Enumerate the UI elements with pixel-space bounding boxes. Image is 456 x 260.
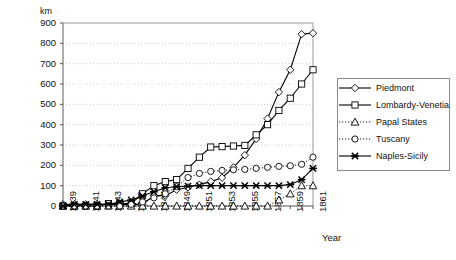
chart-figure: km 9008007006005004003002001000 18391841… xyxy=(0,0,456,260)
legend-triangle-icon xyxy=(338,115,372,129)
legend-cross-icon xyxy=(338,149,372,163)
legend-item-label: Naples-Sicily xyxy=(372,151,428,161)
legend-item-tuscany[interactable]: Tuscany xyxy=(338,130,449,147)
legend-item-label: Lombardy-Venetia xyxy=(372,100,449,110)
legend-square-icon xyxy=(338,98,372,112)
legend-circle-icon xyxy=(338,132,372,146)
legend-diamond-icon xyxy=(338,81,372,95)
legend-item-label: Tuscany xyxy=(372,134,410,144)
chart-legend: PiedmontLombardy-VenetiaPapal StatesTusc… xyxy=(337,78,450,171)
legend-item-naples-sicily[interactable]: Naples-Sicily xyxy=(338,147,449,164)
legend-item-label: Piedmont xyxy=(372,83,414,93)
legend-item-papal-states[interactable]: Papal States xyxy=(338,113,449,130)
series-piedmont xyxy=(59,29,316,208)
legend-item-piedmont[interactable]: Piedmont xyxy=(338,79,449,96)
legend-item-label: Papal States xyxy=(372,117,427,127)
legend-item-lombardy-venetia[interactable]: Lombardy-Venetia xyxy=(338,96,449,113)
